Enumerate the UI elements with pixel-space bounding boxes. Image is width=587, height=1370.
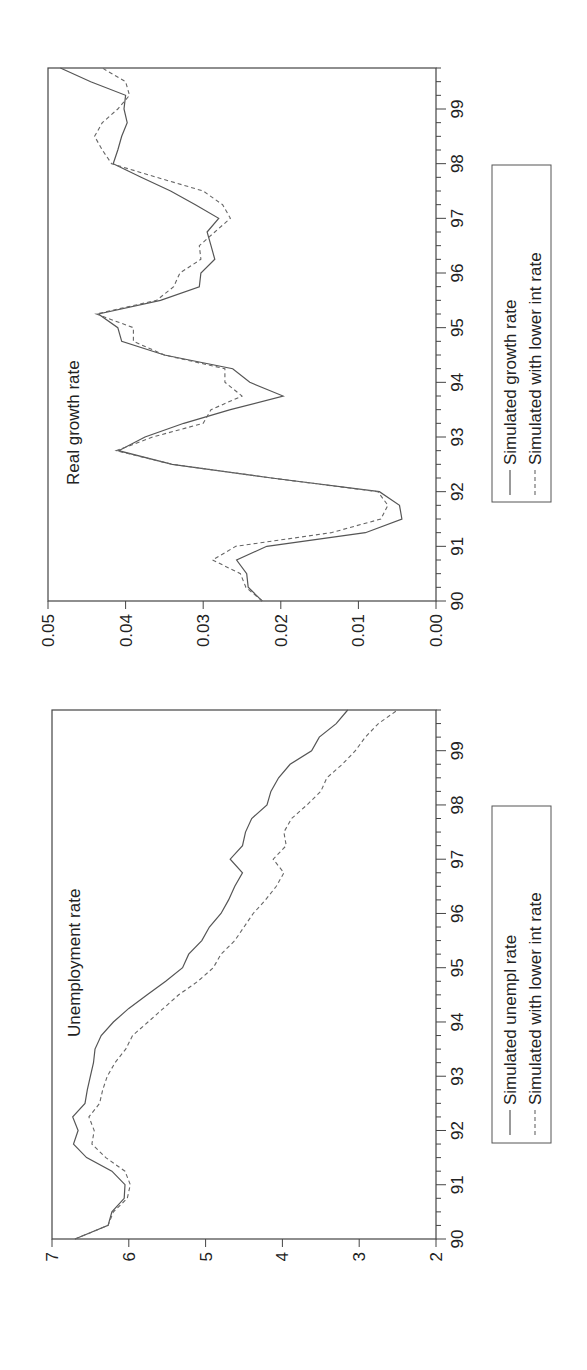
- year-tick-label: 97: [448, 850, 467, 869]
- value-axis-ticks: 0.000.010.020.030.040.05: [39, 601, 446, 647]
- year-tick-label: 95: [448, 318, 467, 337]
- legend: Simulated unempl rate Simulated with low…: [492, 806, 551, 1143]
- value-tick-label: 0.01: [349, 614, 368, 647]
- year-tick-label: 90: [448, 1230, 467, 1249]
- year-axis-ticks: 90919293949596979899: [436, 710, 467, 1248]
- value-axis-ticks: 234567: [43, 1239, 446, 1261]
- chart-title: Real growth rate: [64, 360, 83, 485]
- year-axis-ticks: 90919293949596979899: [436, 68, 467, 610]
- year-tick-label: 91: [448, 1175, 467, 1194]
- legend-label-simulated-growth-rate: Simulated growth rate: [501, 300, 520, 465]
- value-tick-label: 3: [350, 1252, 369, 1261]
- series-simulated-unempl-rate: [73, 710, 348, 1239]
- legend-label-simulated-with-lower-int-rate: Simulated with lower int rate: [526, 892, 545, 1105]
- chart-title: Unemployment rate: [65, 889, 84, 1037]
- value-tick-label: 4: [273, 1252, 292, 1261]
- year-tick-label: 91: [448, 537, 467, 556]
- value-tick-label: 0.02: [272, 614, 291, 647]
- legend-label-simulated-with-lower-int-rate: Simulated with lower int rate: [526, 252, 545, 465]
- plot-frame: [52, 710, 436, 1239]
- value-tick-label: 0.04: [117, 614, 136, 647]
- year-tick-label: 98: [448, 154, 467, 173]
- year-tick-label: 95: [448, 958, 467, 977]
- year-tick-label: 96: [448, 264, 467, 283]
- value-tick-label: 2: [427, 1252, 446, 1261]
- year-tick-label: 99: [448, 100, 467, 119]
- year-tick-label: 93: [448, 1067, 467, 1086]
- value-tick-label: 0.05: [39, 614, 58, 647]
- year-tick-label: 93: [448, 428, 467, 447]
- year-tick-label: 98: [448, 795, 467, 814]
- chart-unemployment-rate: 90919293949596979899 234567 Unemployment…: [43, 710, 551, 1261]
- figure: 90919293949596979899 0.000.010.020.030.0…: [0, 0, 587, 1370]
- value-tick-label: 5: [197, 1252, 216, 1261]
- value-tick-label: 6: [120, 1252, 139, 1261]
- series-simulated-with-lower-int-rate: [75, 710, 398, 1239]
- value-tick-label: 7: [43, 1252, 62, 1261]
- year-tick-label: 94: [448, 373, 467, 392]
- legend: Simulated growth rate Simulated with low…: [492, 165, 551, 502]
- year-tick-label: 92: [448, 1121, 467, 1140]
- year-tick-label: 99: [448, 741, 467, 760]
- series-simulated-with-lower-int-rate: [95, 68, 388, 601]
- year-tick-label: 94: [448, 1013, 467, 1032]
- year-tick-label: 90: [448, 592, 467, 611]
- year-tick-label: 96: [448, 904, 467, 923]
- series-simulated-growth-rate: [60, 68, 402, 601]
- chart-real-growth-rate: 90919293949596979899 0.000.010.020.030.0…: [39, 68, 551, 647]
- legend-label-simulated-unempl-rate: Simulated unempl rate: [501, 935, 520, 1105]
- year-tick-label: 92: [448, 482, 467, 501]
- plot-frame: [48, 68, 436, 601]
- value-tick-label: 0.03: [194, 614, 213, 647]
- year-tick-label: 97: [448, 209, 467, 228]
- value-tick-label: 0.00: [427, 614, 446, 647]
